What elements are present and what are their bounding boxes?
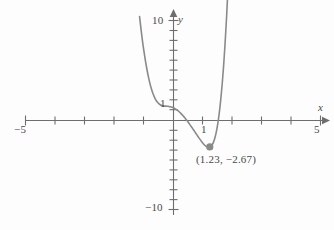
y-axis-tick-label-10: 10 xyxy=(152,14,163,26)
chart-figure: 10 −10 1 1 −5 5 x y (1.23, −2.67) xyxy=(0,0,334,230)
y-axis-name: y xyxy=(178,13,183,25)
minimum-point-marker xyxy=(206,143,213,150)
x-axis-tick-label-1: 1 xyxy=(201,123,207,135)
minimum-point-annotation: (1.23, −2.67) xyxy=(196,153,256,165)
plot-area xyxy=(0,0,334,230)
y-axis xyxy=(169,9,179,215)
x-axis-tick-label-negative-5: −5 xyxy=(14,123,26,135)
y-axis-arrow-icon xyxy=(170,9,178,17)
x-axis-tick-label-5: 5 xyxy=(314,123,320,135)
y-axis-tick-label-negative-10: −10 xyxy=(145,201,163,213)
x-axis-name: x xyxy=(318,101,323,113)
y-axis-tick-label-1: 1 xyxy=(160,97,166,109)
x-axis-arrow-icon xyxy=(322,117,330,125)
x-axis xyxy=(25,116,330,126)
